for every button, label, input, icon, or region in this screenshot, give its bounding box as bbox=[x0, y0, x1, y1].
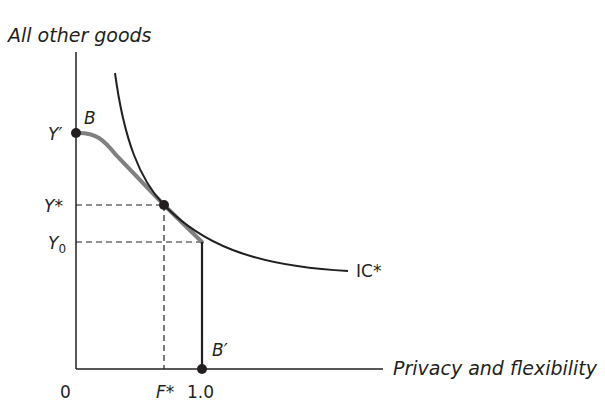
ic-star-label: IC* bbox=[356, 261, 381, 281]
point-y-prime bbox=[71, 128, 81, 138]
budget-constraint bbox=[76, 133, 202, 242]
y-axis-label: All other goods bbox=[6, 24, 152, 46]
y-zero-label: Y0 bbox=[48, 233, 66, 256]
f-star-label: F* bbox=[156, 382, 174, 402]
origin-label: 0 bbox=[60, 382, 71, 402]
b-prime-label: B′ bbox=[212, 340, 228, 360]
one-label: 1.0 bbox=[187, 382, 214, 402]
point-tangency bbox=[159, 200, 169, 210]
y-prime-label: Y′ bbox=[48, 124, 62, 144]
point-b-prime bbox=[197, 364, 207, 374]
y-star-label: Y* bbox=[44, 196, 63, 216]
b-label: B bbox=[84, 108, 96, 128]
x-axis-label: Privacy and flexibility bbox=[393, 357, 598, 379]
indifference-curve-ic-star bbox=[115, 73, 348, 271]
economics-diagram: All other goods Privacy and flexibility … bbox=[0, 0, 605, 415]
